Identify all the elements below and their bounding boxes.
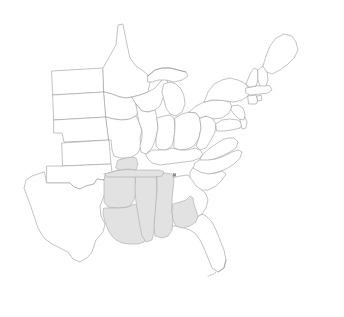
state-south-dakota[interactable] — [53, 92, 106, 120]
state-indiana[interactable] — [156, 115, 175, 150]
state-rhode-island[interactable] — [257, 95, 262, 101]
state-texas[interactable] — [24, 172, 106, 262]
marker-layer — [173, 174, 176, 177]
state-kentucky[interactable] — [146, 148, 203, 165]
state-michigan-lower[interactable] — [162, 82, 185, 116]
tennessee-marker[interactable] — [173, 174, 176, 177]
state-maryland[interactable] — [216, 119, 242, 131]
state-missouri-bootheel-highlighted[interactable] — [116, 157, 138, 170]
florida-keys — [208, 272, 216, 276]
state-michigan-upper[interactable] — [148, 68, 188, 82]
state-vermont[interactable] — [246, 68, 258, 87]
state-tennessee-highlighted[interactable] — [104, 169, 164, 177]
us-region-map — [0, 0, 344, 317]
state-minnesota[interactable] — [103, 24, 150, 98]
state-layer-highlighted — [103, 157, 198, 244]
state-new-york[interactable] — [204, 78, 250, 102]
state-new-jersey[interactable] — [231, 105, 245, 120]
state-maine[interactable] — [263, 34, 298, 74]
state-north-dakota[interactable] — [52, 68, 104, 95]
map-container — [0, 0, 344, 317]
state-alabama-highlighted[interactable] — [154, 173, 174, 238]
state-nebraska[interactable] — [54, 117, 109, 142]
state-missouri[interactable] — [106, 116, 142, 158]
state-connecticut[interactable] — [248, 95, 258, 104]
state-kansas[interactable] — [62, 140, 111, 166]
